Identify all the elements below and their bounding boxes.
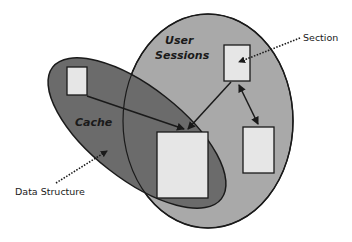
cache-only-box [67,67,87,95]
venn-diagram: User Sessions Cache Section Data Structu… [0,0,352,242]
section-callout-label: Section [303,32,338,43]
user-sessions-label-line2: Sessions [155,49,210,62]
cache-label: Cache [75,116,113,129]
session-only-box [243,127,274,173]
user-sessions-label-line1: User [165,34,194,47]
section-box [224,45,250,81]
shared-box [157,132,208,198]
data-structure-callout-line [56,151,107,183]
data-structure-callout-label: Data Structure [15,186,85,197]
